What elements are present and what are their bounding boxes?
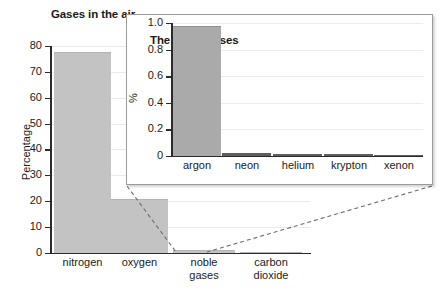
inset-y-tick-label: 1.0 bbox=[139, 16, 163, 28]
main-y-tick: 40 bbox=[45, 149, 51, 150]
main-y-tick: 50 bbox=[45, 124, 51, 125]
label-line: noble bbox=[173, 256, 235, 269]
main-y-tick: 20 bbox=[45, 201, 51, 202]
label-line: nitrogen bbox=[54, 256, 111, 269]
main-y-tick-label: 10 bbox=[18, 220, 42, 232]
label-line: dioxide bbox=[240, 269, 302, 282]
inset-y-tick-label: 0 bbox=[139, 149, 163, 161]
inset-x-tick-label-neon: neon bbox=[222, 159, 272, 171]
main-x-tick-label-noble-gases: noble gases bbox=[173, 256, 235, 281]
inset-x-tick-label-helium: helium bbox=[273, 159, 323, 171]
main-y-tick: 80 bbox=[45, 46, 51, 47]
main-y-tick-label: 30 bbox=[18, 168, 42, 180]
main-y-tick-label: 70 bbox=[18, 65, 42, 77]
main-y-tick-label: 0 bbox=[18, 246, 42, 258]
main-y-tick-label: 20 bbox=[18, 194, 42, 206]
inset-y-tick: 0.6 bbox=[166, 76, 172, 77]
main-y-tick: 30 bbox=[45, 175, 51, 176]
main-y-tick: 10 bbox=[45, 227, 51, 228]
label-line: oxygen bbox=[111, 256, 168, 269]
main-y-tick-label: 80 bbox=[18, 39, 42, 51]
main-y-tick: 0 bbox=[45, 253, 51, 254]
main-y-tick-label: 50 bbox=[18, 117, 42, 129]
inset-y-tick-label: 0.6 bbox=[139, 69, 163, 81]
inset-y-tick-label: 0.2 bbox=[139, 122, 163, 134]
main-x-tick-label-oxygen: oxygen bbox=[111, 256, 168, 269]
inset-x-tick-label-krypton: krypton bbox=[324, 159, 374, 171]
inset-y-tick: 0.2 bbox=[166, 129, 172, 130]
main-chart-x-axis bbox=[50, 253, 311, 255]
inset-y-tick-label: 0.8 bbox=[139, 43, 163, 55]
label-line: gases bbox=[173, 269, 235, 282]
gases-in-the-air-figure: Gases in the air Percentage 80 70 60 50 … bbox=[0, 0, 446, 307]
main-x-tick-label-nitrogen: nitrogen bbox=[54, 256, 111, 269]
label-line: carbon bbox=[240, 256, 302, 269]
inset-chart-y-axis-label: % bbox=[127, 78, 139, 118]
inset-chart-x-axis bbox=[171, 156, 423, 158]
inset-chart-y-axis bbox=[171, 23, 173, 156]
main-y-tick-label: 40 bbox=[18, 142, 42, 154]
inset-x-tick-label-argon: argon bbox=[172, 159, 222, 171]
bar-nitrogen bbox=[54, 52, 111, 254]
inset-y-tick: 0 bbox=[166, 156, 172, 157]
inset-y-tick: 0.4 bbox=[166, 103, 172, 104]
main-y-tick: 70 bbox=[45, 72, 51, 73]
bar-argon bbox=[172, 26, 221, 156]
inset-x-tick-label-xenon: xenon bbox=[374, 159, 424, 171]
main-y-tick-label: 60 bbox=[18, 91, 42, 103]
inset-chart-plot-area bbox=[172, 23, 423, 156]
bar-oxygen bbox=[111, 199, 168, 253]
main-x-tick-label-carbon-dioxide: carbon dioxide bbox=[240, 256, 302, 281]
inset-y-tick-label: 0.4 bbox=[139, 96, 163, 108]
inset-y-tick: 0.8 bbox=[166, 50, 172, 51]
main-y-tick: 60 bbox=[45, 98, 51, 99]
inset-y-tick: 1.0 bbox=[166, 23, 172, 24]
